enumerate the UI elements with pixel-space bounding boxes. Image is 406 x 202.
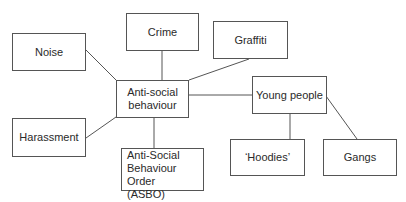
node-hoodies: ‘Hoodies’ bbox=[230, 139, 305, 176]
node-asb-label-line2: behaviour bbox=[128, 99, 176, 112]
edge-asb-harassment bbox=[86, 117, 116, 138]
node-noise-label: Noise bbox=[35, 46, 63, 59]
edge-young-gangs bbox=[326, 96, 357, 139]
edge-asb-graffiti bbox=[189, 59, 249, 80]
node-harassment-label: Harassment bbox=[19, 131, 78, 144]
node-asbo-label-line2: Behaviour Order bbox=[127, 162, 203, 188]
node-young-people-label: Young people bbox=[256, 89, 323, 102]
node-noise: Noise bbox=[12, 33, 86, 71]
edge-asb-noise bbox=[86, 50, 116, 80]
node-harassment: Harassment bbox=[12, 118, 86, 157]
node-hoodies-label: ‘Hoodies’ bbox=[245, 151, 290, 164]
node-asbo-label-line3: (ASBO) bbox=[127, 188, 165, 201]
node-graffiti-label: Graffiti bbox=[234, 34, 266, 47]
node-crime-label: Crime bbox=[148, 26, 177, 39]
node-graffiti: Graffiti bbox=[213, 21, 288, 59]
node-asb-label-line1: Anti-social bbox=[127, 86, 178, 99]
node-young-people: Young people bbox=[252, 76, 327, 114]
node-asbo: Anti-Social Behaviour Order (ASBO) bbox=[121, 148, 204, 191]
node-asbo-label-line1: Anti-Social bbox=[127, 149, 180, 162]
node-crime: Crime bbox=[126, 13, 199, 51]
node-anti-social-behaviour: Anti-social behaviour bbox=[116, 80, 189, 118]
node-gangs: Gangs bbox=[323, 139, 397, 176]
node-gangs-label: Gangs bbox=[344, 151, 376, 164]
